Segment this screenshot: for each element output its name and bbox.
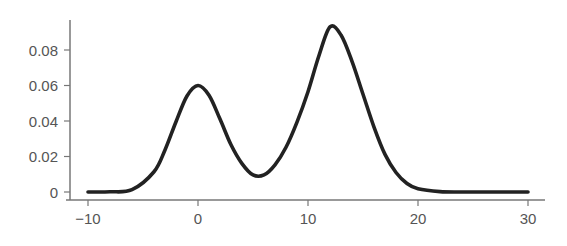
x-tick-label: −10 (75, 210, 100, 227)
y-tick-label: 0.02 (29, 148, 58, 165)
density-chart: 00.020.040.060.08 −100102030 (0, 0, 567, 246)
x-tick-label: 0 (194, 210, 202, 227)
y-axis: 00.020.040.060.08 (29, 20, 70, 201)
y-tick-label: 0.08 (29, 42, 58, 59)
density-curve (88, 26, 528, 192)
x-axis: −100102030 (66, 200, 545, 227)
y-tick-label: 0.04 (29, 113, 58, 130)
x-tick-label: 30 (520, 210, 537, 227)
x-tick-label: 10 (300, 210, 317, 227)
x-tick-label: 20 (410, 210, 427, 227)
y-tick-label: 0 (50, 184, 58, 201)
y-tick-label: 0.06 (29, 77, 58, 94)
